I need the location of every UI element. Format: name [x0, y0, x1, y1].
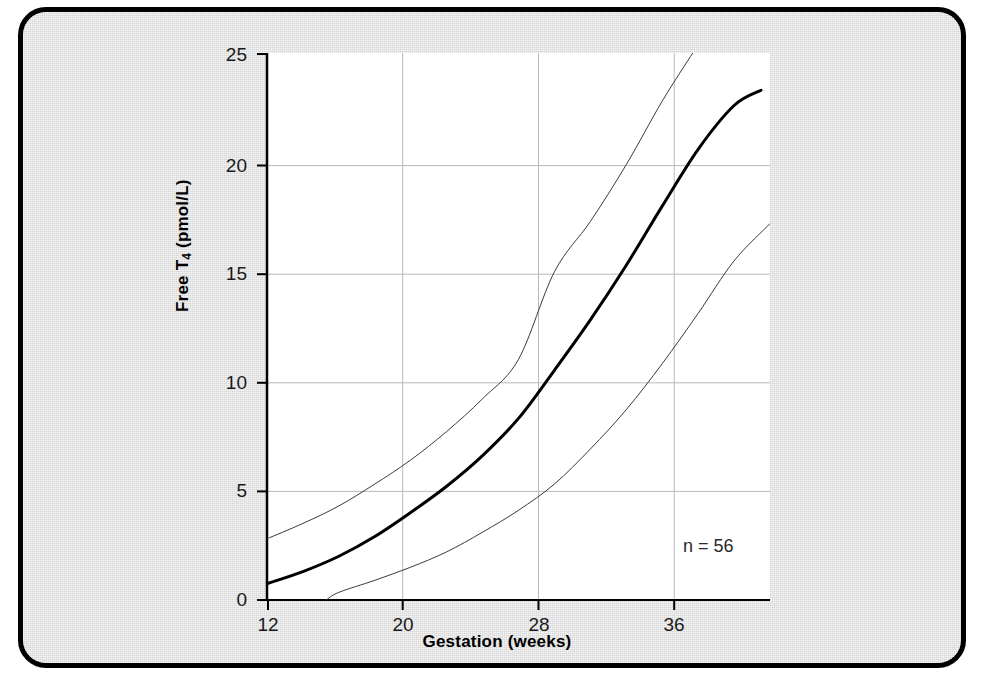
y-axis-title-suffix: (pmol/L)	[173, 179, 192, 253]
y-tick-label-0: 0	[199, 589, 247, 611]
y-axis-title-subscript: 4	[180, 253, 194, 260]
y-axis-title: Free T4 (pmol/L)	[173, 179, 193, 312]
sample-size-annotation: n = 56	[683, 536, 734, 557]
x-axis-ticks	[268, 600, 674, 610]
y-tick-label-15: 15	[199, 263, 247, 285]
chart-page: 0 5 10 15 20 25 12 20 28 36 Gestation (w…	[0, 0, 984, 683]
x-axis-title: Gestation (weeks)	[23, 632, 966, 652]
chart-plot-region: 0 5 10 15 20 25 12 20 28 36 Gestation (w…	[23, 12, 966, 668]
y-tick-label-25: 25	[199, 44, 247, 66]
y-tick-label-10: 10	[199, 372, 247, 394]
y-axis-title-prefix: Free T	[173, 260, 192, 312]
free-t4-gestation-line-chart	[23, 12, 966, 668]
y-tick-label-5: 5	[199, 480, 247, 502]
figure-frame: 0 5 10 15 20 25 12 20 28 36 Gestation (w…	[18, 7, 966, 668]
y-tick-label-20: 20	[199, 155, 247, 177]
y-axis-ticks	[257, 54, 267, 600]
plot-background	[267, 53, 770, 600]
